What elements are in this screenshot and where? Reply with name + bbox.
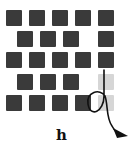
panel-label: h	[56, 126, 67, 144]
looped-arrow-icon	[0, 0, 139, 166]
